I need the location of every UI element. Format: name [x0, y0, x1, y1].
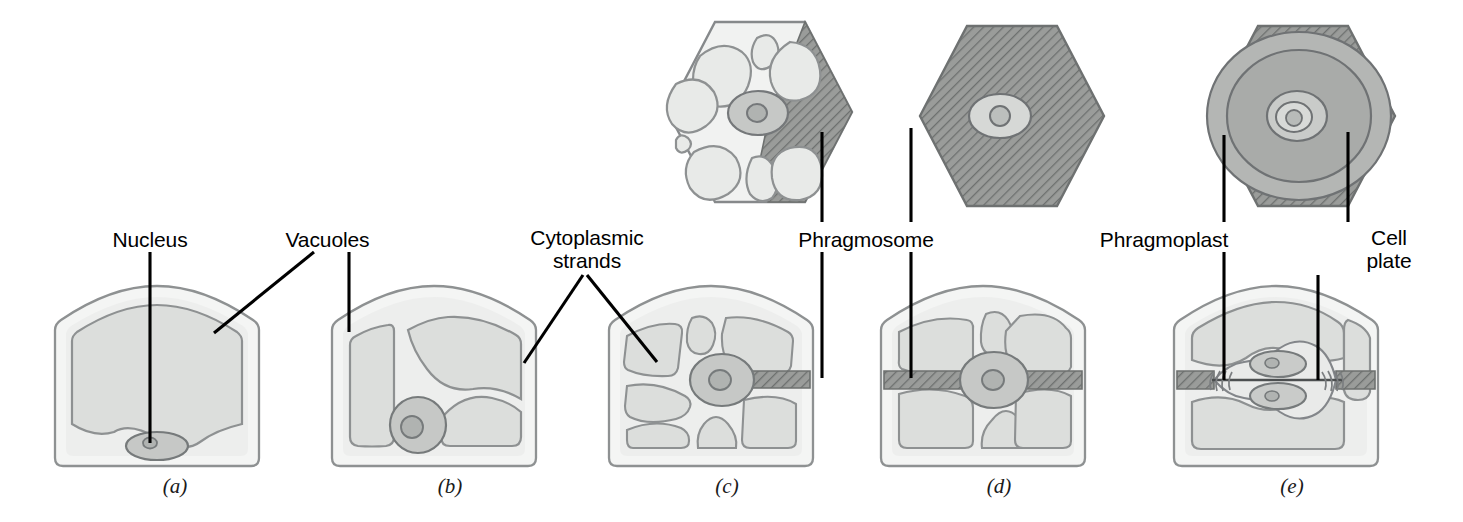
vacuole	[627, 423, 689, 448]
nucleolus-b	[401, 416, 423, 438]
figure-root: Nucleus Vacuoles Cytoplasmic strands Phr…	[0, 0, 1463, 522]
label-nucleus: Nucleus	[60, 228, 240, 252]
top-view-e	[1207, 26, 1395, 206]
top-view-d	[920, 26, 1104, 206]
vacuole	[676, 135, 691, 152]
leader-vacuoles-a	[214, 252, 314, 333]
top-view-c	[667, 22, 852, 202]
panel-letter-c: (c)	[697, 474, 757, 499]
vacuole	[772, 147, 823, 200]
side-view-c	[609, 286, 813, 466]
phragmosome-band-e-left	[1177, 371, 1214, 389]
nucleolus-d	[990, 106, 1010, 126]
label-phragmoplast: Phragmoplast	[1056, 228, 1272, 252]
vacuole-a	[72, 305, 242, 447]
leader-strands-b	[524, 275, 583, 363]
panel-letter-b: (b)	[420, 474, 480, 499]
label-phragmosome: Phragmosome	[758, 228, 974, 252]
diagram-canvas	[0, 0, 1463, 522]
nucleolus-e	[1286, 110, 1302, 126]
vacuole	[687, 316, 715, 354]
daughter-nucleolus-lower-e	[1265, 391, 1279, 401]
vacuole	[899, 389, 973, 448]
vacuole	[350, 325, 394, 447]
vacuole	[686, 146, 741, 200]
nucleolus-d-side	[982, 370, 1004, 390]
side-view-e	[1174, 286, 1378, 466]
vacuole	[1015, 389, 1071, 448]
nucleolus-c-side	[709, 370, 731, 390]
panel-letter-d: (d)	[969, 474, 1029, 499]
label-cell-plate: Cell plate	[1327, 226, 1451, 272]
side-view-a	[55, 286, 259, 466]
label-vacuoles: Vacuoles	[240, 228, 415, 252]
side-view-b	[332, 286, 536, 466]
nucleolus-c	[747, 104, 767, 122]
panel-letter-a: (a)	[145, 474, 205, 499]
vacuole	[742, 397, 796, 448]
label-cytoplasmic-strands: Cytoplasmic strands	[492, 226, 682, 272]
daughter-nucleolus-upper-e	[1265, 358, 1279, 368]
panel-letter-e: (e)	[1262, 474, 1322, 499]
